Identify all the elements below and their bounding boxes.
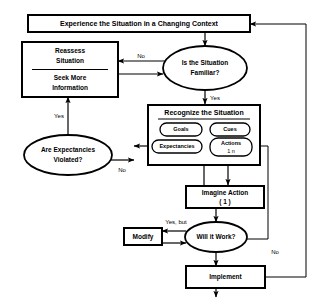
node-is-situation-familiar[interactable]: Is the Situation Familiar? bbox=[163, 46, 247, 90]
node-familiar-label-line1: Is the Situation bbox=[182, 59, 229, 66]
node-goals-label: Goals bbox=[173, 126, 188, 132]
node-actions-label-line2: 1 n bbox=[227, 148, 235, 154]
node-imagine-action[interactable]: Imagine Action ( 1 ) bbox=[186, 186, 264, 208]
node-seek-more-label-line1: Seek More bbox=[54, 74, 87, 81]
node-will-it-work[interactable]: Will it Work? bbox=[185, 222, 247, 252]
flowchart-diagram: Experience the Situation in a Changing C… bbox=[0, 0, 320, 305]
node-expectancies-label: Expectancies bbox=[159, 143, 194, 149]
node-implement[interactable]: Implement bbox=[186, 266, 265, 288]
edge-label-familiar-no: No bbox=[137, 53, 145, 59]
node-experience-situation[interactable]: Experience the Situation in a Changing C… bbox=[28, 15, 250, 32]
node-violated-label-line1: Are Expectancies bbox=[41, 146, 96, 154]
node-imagine-action-label-line1: Imagine Action bbox=[202, 189, 248, 197]
node-implement-label: Implement bbox=[209, 273, 242, 281]
node-actions-label-line1: Actions bbox=[221, 140, 241, 146]
edge-label-violated-yes: Yes bbox=[54, 113, 64, 119]
edge-label-work-no: No bbox=[271, 249, 279, 255]
node-recognize-situation-group[interactable]: Recognize the Situation Goals Cues Expec… bbox=[148, 105, 260, 165]
node-are-expectancies-violated[interactable]: Are Expectancies Violated? bbox=[24, 135, 112, 175]
node-violated-label-line2: Violated? bbox=[53, 156, 82, 163]
node-experience-label: Experience the Situation in a Changing C… bbox=[60, 20, 219, 28]
node-reassess-label-line1: Reassess bbox=[55, 47, 85, 54]
node-reassess-seek-group[interactable]: Reassess Situation Seek More Information bbox=[22, 42, 118, 97]
node-modify-label: Modify bbox=[133, 233, 154, 241]
node-cues[interactable]: Cues bbox=[210, 123, 250, 136]
node-goals[interactable]: Goals bbox=[160, 123, 202, 136]
node-recognize-label: Recognize the Situation bbox=[164, 109, 243, 117]
node-expectancies[interactable]: Expectancies bbox=[152, 140, 202, 153]
node-imagine-action-label-line2: ( 1 ) bbox=[219, 198, 231, 206]
edge-label-familiar-yes: Yes bbox=[210, 95, 220, 101]
node-cues-label: Cues bbox=[223, 126, 236, 132]
node-reassess-label-line2: Situation bbox=[56, 57, 84, 64]
node-will-it-work-label: Will it Work? bbox=[196, 233, 235, 240]
node-modify[interactable]: Modify bbox=[124, 228, 162, 245]
node-familiar-label-line2: Familiar? bbox=[191, 69, 220, 76]
edge-label-violated-no: No bbox=[118, 167, 126, 173]
edge-label-work-yes-but: Yes, but bbox=[165, 219, 187, 225]
flowchart-canvas: Experience the Situation in a Changing C… bbox=[0, 0, 320, 305]
node-seek-more-label-line2: Information bbox=[52, 84, 88, 91]
node-actions[interactable]: Actions 1 n bbox=[210, 138, 252, 156]
